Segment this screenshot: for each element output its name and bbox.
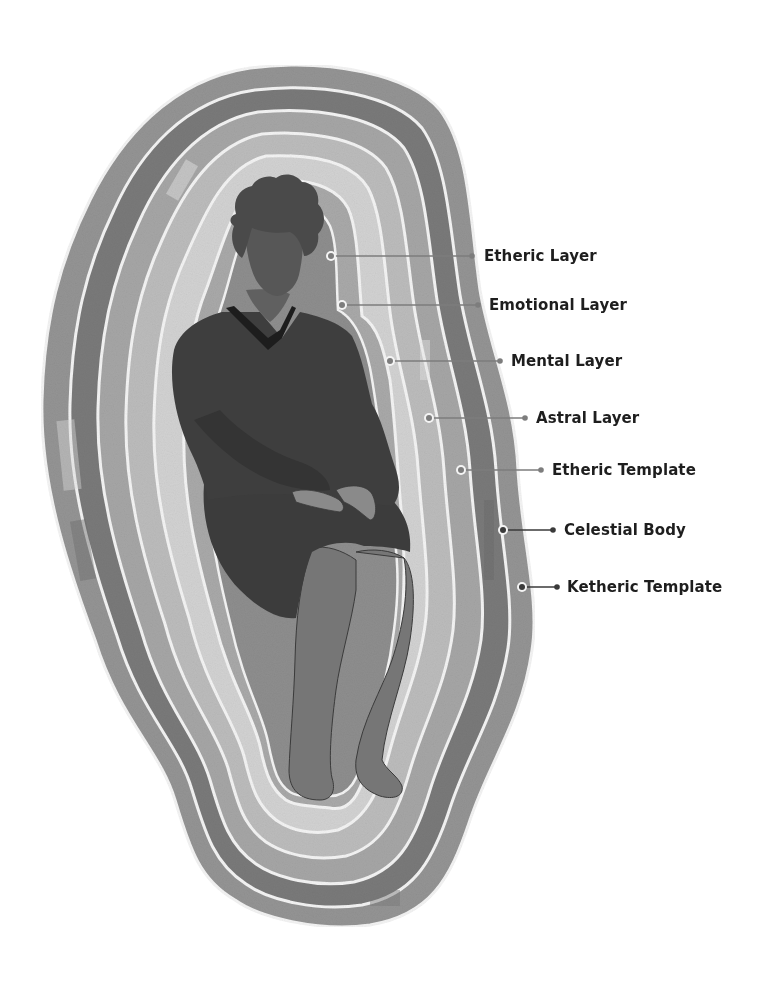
end-dot-etheric-template bbox=[538, 467, 544, 473]
label-etheric-layer: Etheric Layer bbox=[484, 247, 597, 265]
end-dot-emotional-layer bbox=[475, 302, 481, 308]
label-celestial-body: Celestial Body bbox=[564, 521, 686, 539]
end-dot-ketheric-template bbox=[554, 584, 560, 590]
anchor-dot-mental-layer bbox=[387, 358, 393, 364]
aura-layers-illustration bbox=[0, 0, 773, 986]
anchor-dot-etheric-layer bbox=[328, 253, 334, 259]
label-mental-layer: Mental Layer bbox=[511, 352, 622, 370]
label-etheric-template: Etheric Template bbox=[552, 461, 696, 479]
anchor-dot-emotional-layer bbox=[339, 302, 345, 308]
end-dot-etheric-layer bbox=[469, 253, 475, 259]
label-emotional-layer: Emotional Layer bbox=[489, 296, 627, 314]
end-dot-astral-layer bbox=[522, 415, 528, 421]
anchor-dot-ketheric-template bbox=[519, 584, 525, 590]
label-ketheric-template: Ketheric Template bbox=[567, 578, 722, 596]
end-dot-mental-layer bbox=[497, 358, 503, 364]
anchor-dot-etheric-template bbox=[458, 467, 464, 473]
end-dot-celestial-body bbox=[550, 527, 556, 533]
label-astral-layer: Astral Layer bbox=[536, 409, 639, 427]
anchor-dot-astral-layer bbox=[426, 415, 432, 421]
anchor-dot-celestial-body bbox=[500, 527, 506, 533]
